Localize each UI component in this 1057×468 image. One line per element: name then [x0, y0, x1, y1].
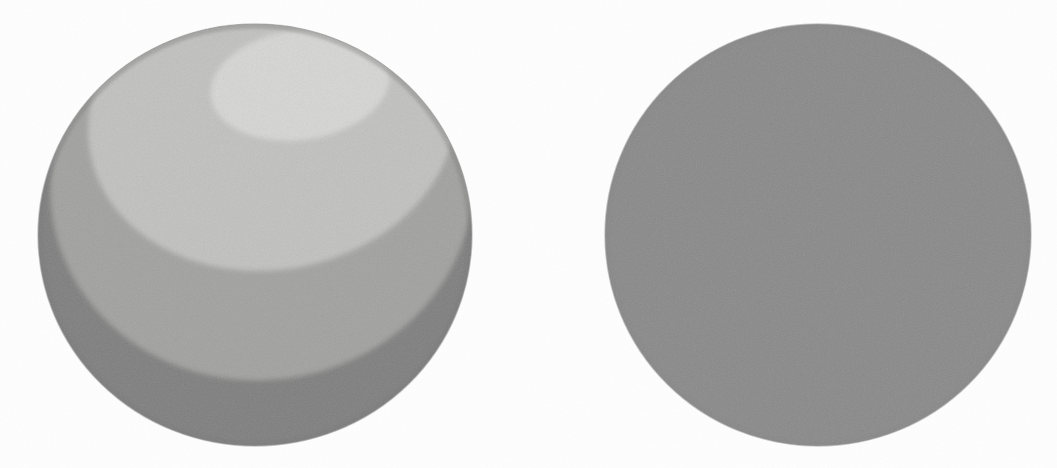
left-sphere-graphic — [0, 0, 520, 468]
left-sphere — [0, 0, 520, 468]
right-sphere-graphic — [520, 0, 1057, 468]
right-sphere-grain — [520, 0, 1057, 468]
figure-canvas — [0, 0, 1057, 468]
right-sphere — [520, 0, 1057, 468]
left-sphere-grain — [0, 0, 520, 468]
